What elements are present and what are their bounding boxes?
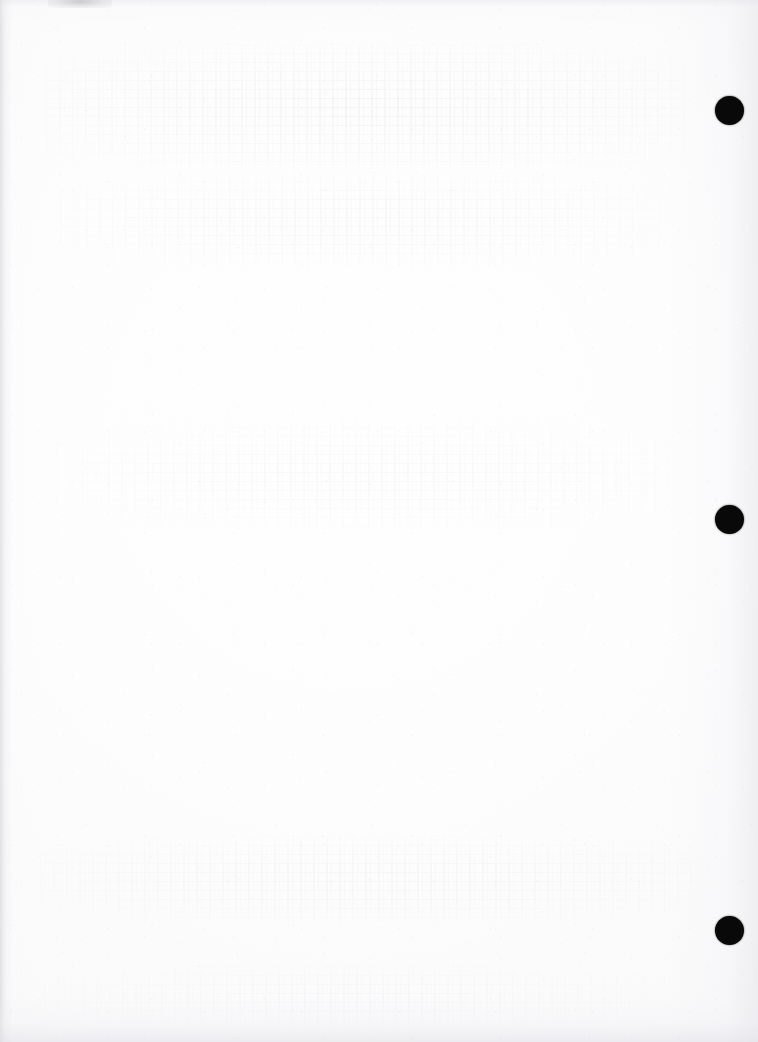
scanned-page — [0, 0, 758, 1042]
registration-mark-middle — [715, 505, 744, 534]
top-edge-smudge — [48, 0, 112, 8]
registration-mark-bottom — [715, 916, 744, 945]
registration-mark-top — [715, 96, 744, 125]
scanner-grain-texture — [0, 0, 758, 1042]
